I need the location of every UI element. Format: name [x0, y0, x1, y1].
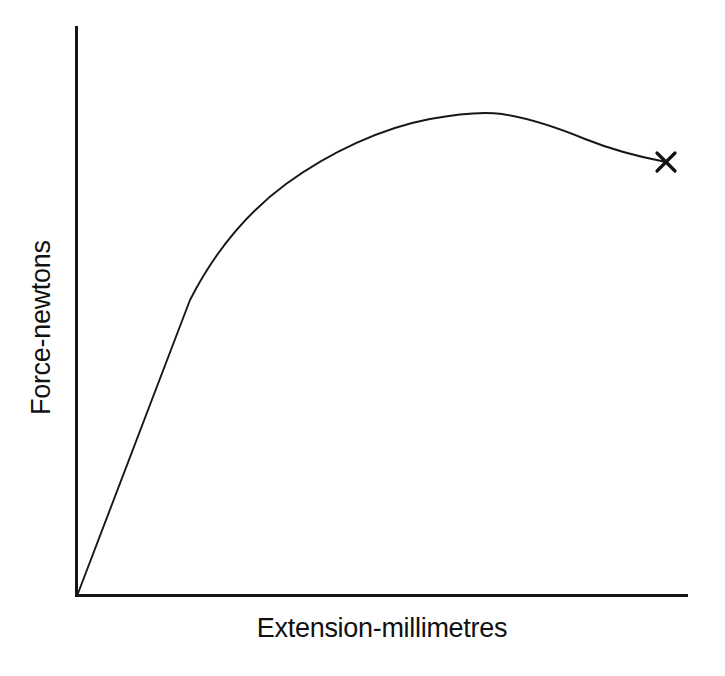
force-extension-figure: Extension-millimetres Force-newtons [0, 0, 725, 676]
y-axis-title: Force-newtons [28, 95, 55, 415]
force-extension-curve [77, 113, 666, 596]
chart-canvas [0, 0, 725, 676]
x-axis-title: Extension-millimetres [0, 615, 725, 642]
fracture-point-marker [657, 153, 675, 171]
